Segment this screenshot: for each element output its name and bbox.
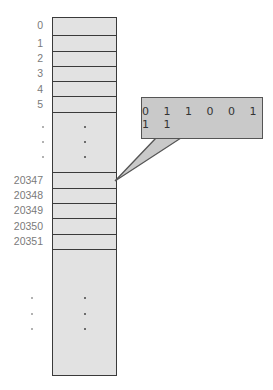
callout-box: 0 1 1 0 0 1 1 1	[141, 97, 263, 139]
callout-bits: 0 1 1 0 0 1 1 1	[142, 105, 262, 131]
callout-pointer	[0, 0, 273, 390]
